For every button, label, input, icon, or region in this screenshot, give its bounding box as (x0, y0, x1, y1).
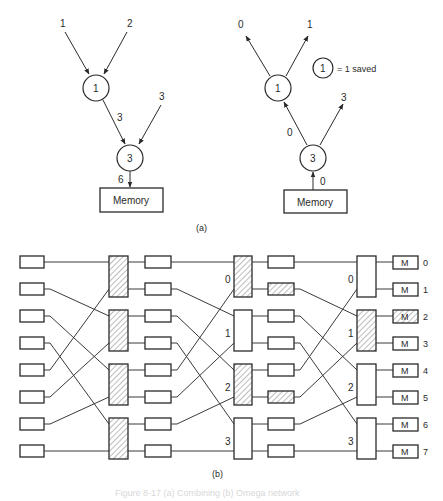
memory-index: 6 (423, 420, 428, 430)
stage1-switch-1 (109, 310, 128, 351)
edge-label-0: 0 (287, 127, 293, 138)
stage2-switches: 0 1 2 3 (225, 256, 252, 459)
memory-index: 4 (423, 366, 428, 376)
stage3-switch-0 (357, 256, 376, 297)
memory-index: 5 (423, 393, 428, 403)
stage2-switch-2 (234, 364, 252, 405)
stage1-switch-2 (109, 364, 128, 405)
node-value-lower: 3 (127, 153, 133, 164)
memory-label-left: Memory (113, 195, 149, 206)
part-a-label: (a) (196, 223, 207, 233)
stage2-label-1: 1 (225, 328, 231, 339)
stage2-label-2: 2 (225, 382, 231, 393)
node-value-lower-right: 3 (310, 153, 316, 164)
memory-module-label: M (401, 339, 409, 349)
memory-module-label: M (401, 393, 409, 403)
stage2-output-wires (252, 262, 268, 451)
memory-index: 1 (423, 285, 428, 295)
memory-module-label: M (401, 420, 409, 430)
stage3-switches: 0 1 2 3 (348, 256, 376, 459)
input-label-1: 1 (60, 18, 66, 29)
memory-input-label: 6 (118, 174, 124, 185)
stage1-switches (109, 256, 128, 459)
stage3-switch-2 (357, 364, 376, 405)
input-buffers (20, 256, 44, 457)
memory-index: 7 (423, 447, 428, 457)
stage3-label-2: 2 (348, 382, 354, 393)
stage2-label-3: 3 (225, 436, 231, 447)
part-b-label: (b) (212, 469, 223, 479)
stage2-switch-0 (234, 256, 252, 297)
stage1-switch-0 (109, 256, 128, 297)
memory-label-right: Memory (297, 197, 333, 208)
memory-output-label: 0 (320, 176, 326, 187)
stage3-label-3: 3 (348, 436, 354, 447)
stage1-buffers (145, 256, 171, 457)
figure: 1 2 1 3 3 3 6 Memory 0 1 1 1 = 1 saved 0… (0, 0, 443, 501)
stage3-switch-3 (357, 418, 376, 459)
shuffle-wires-1 (44, 262, 109, 451)
stage2-switch-1 (234, 310, 252, 351)
memory-module-label: M (401, 447, 409, 457)
side-output-label: 3 (341, 92, 347, 103)
memory-module-label: M (401, 285, 409, 295)
stage2-label-0: 0 (225, 274, 231, 285)
memory-module-label: M (401, 366, 409, 376)
figure-caption: Figure 8-17 (a) Combining (b) Omega netw… (115, 488, 300, 498)
output-label-0: 0 (238, 19, 244, 30)
memory-module-label: M (401, 258, 409, 268)
legend-circle-value: 1 (320, 63, 326, 74)
legend-text: = 1 saved (337, 64, 376, 74)
stage2-buffers (268, 256, 294, 457)
shuffle-wires-3 (294, 262, 357, 451)
memory-index: 3 (423, 339, 428, 349)
node-value-upper-right: 1 (275, 83, 281, 94)
memory-index: 2 (423, 312, 428, 322)
input-label-2: 2 (127, 18, 133, 29)
edge-label-3: 3 (117, 112, 123, 123)
memory-modules: M M M M M M M M 0 1 2 3 4 5 6 7 (393, 256, 428, 458)
shuffle-wires-2 (171, 262, 234, 451)
stage1-output-wires (128, 262, 145, 451)
stage3-label-1: 1 (348, 328, 354, 339)
stage3-switch-1 (357, 310, 376, 351)
stage3-output-wires (376, 262, 393, 451)
side-input-label: 3 (159, 91, 165, 102)
memory-module-label: M (401, 312, 409, 322)
node-value-upper: 1 (93, 83, 99, 94)
memory-index: 0 (423, 258, 428, 268)
stage1-switch-3 (109, 418, 128, 459)
decombining-tree: 0 1 1 1 = 1 saved 0 3 3 0 Memory (238, 19, 376, 213)
stage3-label-0: 0 (348, 274, 354, 285)
omega-network: 0 1 2 3 (20, 256, 428, 459)
stage2-switch-3 (234, 418, 252, 459)
combining-tree: 1 2 1 3 3 3 6 Memory (60, 18, 165, 212)
output-label-1: 1 (307, 19, 313, 30)
